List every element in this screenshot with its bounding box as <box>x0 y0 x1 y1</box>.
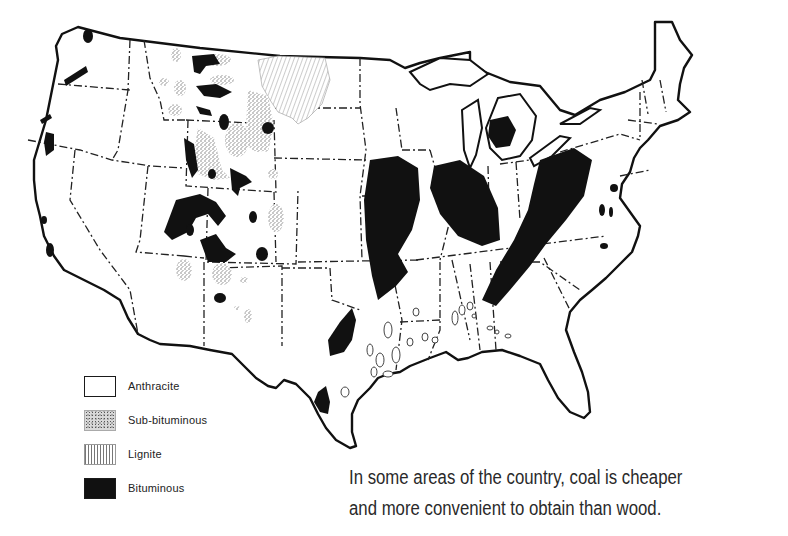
vertical-hatch-swatch-icon <box>84 444 116 465</box>
legend-label: Bituminous <box>128 482 184 494</box>
solid-black-swatch-icon <box>84 478 116 499</box>
legend-label: Lignite <box>128 448 162 460</box>
white-box-swatch-icon <box>84 376 116 397</box>
caption-line-2: and more convenient to obtain than wood. <box>349 493 719 524</box>
legend-item-lignite: Lignite <box>84 437 274 471</box>
map-legend: Anthracite Sub-bituminous Lignite Bitumi… <box>84 369 274 505</box>
legend-label: Anthracite <box>128 380 180 392</box>
legend-item-anthracite: Anthracite <box>84 369 274 403</box>
legend-item-sub-bituminous: Sub-bituminous <box>84 403 274 437</box>
caption-line-1: In some areas of the country, coal is ch… <box>349 462 719 493</box>
legend-label: Sub-bituminous <box>128 414 207 426</box>
stippled-swatch-icon <box>84 410 116 431</box>
map-caption: In some areas of the country, coal is ch… <box>349 462 719 524</box>
legend-item-bituminous: Bituminous <box>84 471 274 505</box>
